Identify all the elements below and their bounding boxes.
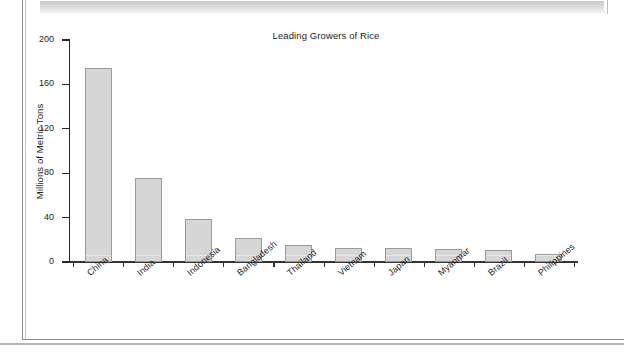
bar (135, 178, 162, 262)
y-tick-label-80: 80 (8, 167, 54, 177)
y-tick-label-0: 0 (8, 256, 54, 266)
x-tick (424, 262, 425, 267)
x-tick (574, 262, 575, 267)
x-tick (123, 262, 124, 267)
y-axis-ticks: 04080120160200 (0, 0, 69, 300)
page-bottom-edge (0, 343, 624, 345)
y-axis-line (69, 39, 70, 263)
x-tick (324, 262, 325, 267)
y-tick-200 (62, 39, 69, 40)
y-tick-160 (62, 84, 69, 85)
y-tick-40 (62, 217, 69, 218)
y-tick-label-200: 200 (8, 34, 54, 44)
y-tick-80 (62, 173, 69, 174)
x-tick (474, 262, 475, 267)
y-tick-120 (62, 128, 69, 129)
y-tick-0 (62, 261, 69, 262)
chart-title: Leading Growers of Rice (236, 30, 416, 41)
x-tick (524, 262, 525, 267)
y-tick-label-120: 120 (8, 123, 54, 133)
bar-chart: Leading Growers of Rice Millions of Metr… (0, 0, 624, 340)
x-tick (73, 262, 74, 267)
bar (85, 68, 112, 262)
x-tick (173, 262, 174, 267)
scanned-page: Leading Growers of Rice Millions of Metr… (0, 0, 624, 355)
x-tick (223, 262, 224, 267)
x-tick (273, 262, 274, 267)
x-tick (374, 262, 375, 267)
y-tick-label-40: 40 (8, 212, 54, 222)
y-tick-label-160: 160 (8, 78, 54, 88)
